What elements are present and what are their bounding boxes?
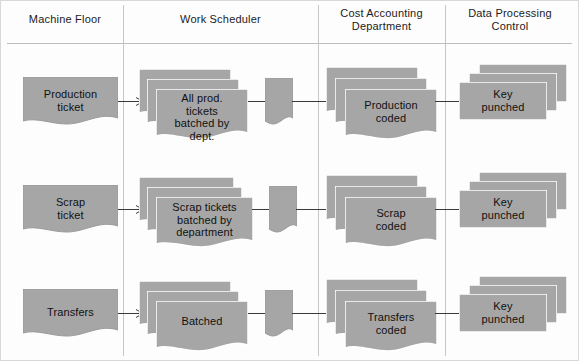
- lane-title-work-scheduler: Work Scheduler: [125, 13, 316, 26]
- header-rule: [7, 43, 572, 44]
- stack-copy-front[interactable]: Production coded: [345, 89, 437, 141]
- card-stack-keypunched-scrap[interactable]: Key punched: [459, 172, 579, 234]
- lane-label-text: Work Scheduler: [180, 13, 261, 25]
- document-stack-transfers-coded[interactable]: Transfers coded: [326, 279, 438, 353]
- document-stack-prod-batched[interactable]: All prod. tickets batched by dept.: [139, 69, 249, 141]
- stack-copy-front[interactable]: Key punched: [459, 294, 547, 332]
- lane-label-text: Control: [447, 20, 573, 33]
- card-stack-keypunched-transfers[interactable]: Key punched: [459, 276, 579, 338]
- stack-copy-front[interactable]: Key punched: [459, 82, 547, 120]
- stack-copy-front[interactable]: Batched: [156, 301, 248, 353]
- connector-document-transfers[interactable]: [265, 290, 293, 338]
- stack-copy-front[interactable]: Scrap coded: [345, 197, 437, 249]
- document-transfers[interactable]: Transfers: [23, 289, 118, 338]
- lane-title-machine-floor: Machine Floor: [9, 13, 121, 26]
- card-stack-keypunched-production[interactable]: Key punched: [459, 64, 579, 126]
- stack-copy-front[interactable]: Scrap tickets batched by department: [156, 197, 253, 249]
- lane-title-data-processing: Data Processing Control: [447, 7, 573, 32]
- document-stack-scrap-batched[interactable]: Scrap tickets batched by department: [139, 177, 253, 249]
- connector-document-scrap[interactable]: [269, 186, 297, 234]
- document-stack-scrap-coded[interactable]: Scrap coded: [326, 175, 438, 249]
- flowchart-canvas: Machine Floor Work Scheduler Cost Accoun…: [0, 0, 579, 361]
- lane-label-text: Department: [320, 20, 443, 33]
- document-stack-transfers-batched[interactable]: Batched: [139, 281, 249, 353]
- stack-copy-front[interactable]: Transfers coded: [345, 301, 437, 353]
- lane-divider-1: [123, 5, 124, 356]
- lane-divider-3: [445, 5, 446, 356]
- document-stack-production-coded[interactable]: Production coded: [326, 67, 438, 141]
- lane-label-text: Cost Accounting: [320, 7, 443, 20]
- connector-document-production[interactable]: [265, 78, 293, 126]
- lane-title-cost-accounting: Cost Accounting Department: [320, 7, 443, 32]
- lane-label-text: Data Processing: [447, 7, 573, 20]
- stack-copy-front[interactable]: Key punched: [459, 190, 547, 228]
- lane-divider-2: [318, 5, 319, 356]
- document-production-ticket[interactable]: Production ticket: [23, 77, 118, 126]
- stack-copy-front[interactable]: All prod. tickets batched by dept.: [156, 89, 248, 141]
- document-scrap-ticket[interactable]: Scrap ticket: [23, 185, 118, 234]
- lane-label-text: Machine Floor: [29, 13, 101, 25]
